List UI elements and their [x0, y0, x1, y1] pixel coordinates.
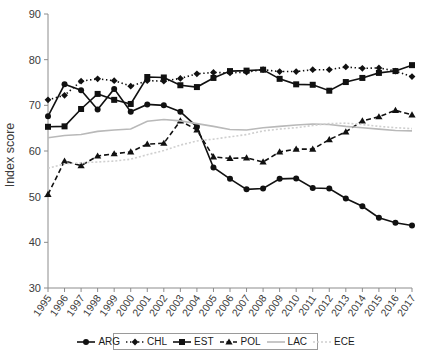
- series-line-lac: [48, 119, 412, 137]
- data-point-chl: [342, 64, 349, 71]
- legend-item-pol[interactable]: POL: [219, 337, 261, 347]
- data-point-est: [244, 68, 250, 74]
- data-point-arg: [277, 176, 283, 182]
- legend-item-ece[interactable]: ECE: [312, 337, 355, 347]
- data-point-arg: [177, 109, 183, 115]
- data-point-est: [45, 124, 51, 130]
- data-point-chl: [177, 75, 184, 82]
- legend-item-lac[interactable]: LAC: [266, 337, 307, 347]
- data-point-chl: [78, 78, 85, 85]
- data-point-chl: [210, 69, 217, 76]
- data-point-arg: [95, 106, 101, 112]
- y-tick-label: 30: [29, 282, 41, 294]
- legend-symbol-square-solid-line-icon: [172, 337, 192, 347]
- data-point-arg: [392, 220, 398, 226]
- data-point-pol: [359, 117, 366, 123]
- data-point-arg: [45, 113, 51, 119]
- data-point-arg: [210, 164, 216, 170]
- data-point-est: [409, 62, 415, 68]
- y-tick-label: 90: [29, 8, 41, 20]
- data-point-est: [392, 68, 398, 74]
- data-point-arg: [161, 102, 167, 108]
- data-point-est: [128, 101, 134, 107]
- data-point-chl: [276, 68, 283, 75]
- data-point-arg: [376, 215, 382, 221]
- y-axis-title: Index score: [3, 123, 17, 188]
- data-point-est: [376, 70, 382, 76]
- data-point-arg: [326, 185, 332, 191]
- x-axis: 1995199619971998199920002001200220032004…: [30, 288, 417, 318]
- data-point-pol: [144, 141, 151, 147]
- legend-label: EST: [194, 337, 213, 347]
- data-point-arg: [343, 195, 349, 201]
- data-point-pol: [61, 157, 68, 163]
- chart-plot-area: 90807060504030 1995199619971998199920002…: [0, 0, 430, 363]
- y-tick-label: 50: [29, 191, 41, 203]
- data-point-est: [62, 123, 68, 129]
- data-point-chl: [326, 66, 333, 73]
- chart-legend: ARGCHLESTPOLLACECE: [113, 333, 318, 350]
- data-point-pol: [44, 191, 51, 197]
- x-tick-label: 2017: [394, 292, 417, 318]
- data-point-pol: [392, 107, 399, 113]
- data-point-est: [177, 82, 183, 88]
- y-tick-label: 70: [29, 99, 41, 111]
- legend-item-chl[interactable]: CHL: [125, 337, 167, 347]
- legend-label: ARG: [98, 337, 120, 347]
- data-point-arg: [227, 176, 233, 182]
- data-point-est: [277, 76, 283, 82]
- index-score-line-chart: 90807060504030 1995199619971998199920002…: [0, 0, 430, 363]
- data-point-est: [78, 106, 84, 112]
- data-point-arg: [310, 185, 316, 191]
- legend-item-arg[interactable]: ARG: [76, 337, 120, 347]
- data-point-est: [95, 91, 101, 97]
- legend-label: LAC: [288, 337, 307, 347]
- legend-symbol-circle-solid-line-icon: [76, 337, 96, 347]
- data-point-chl: [111, 77, 118, 84]
- y-axis: 90807060504030: [29, 8, 48, 294]
- data-point-pol: [342, 128, 349, 134]
- data-point-arg: [244, 186, 250, 192]
- data-point-est: [343, 79, 349, 85]
- data-point-arg: [260, 185, 266, 191]
- data-point-pol: [375, 113, 382, 119]
- legend-label: CHL: [147, 337, 167, 347]
- data-point-arg: [111, 86, 117, 92]
- data-point-est: [161, 74, 167, 80]
- data-point-pol: [408, 111, 415, 117]
- data-point-est: [111, 97, 117, 103]
- legend-label: POL: [241, 337, 261, 347]
- data-point-arg: [144, 101, 150, 107]
- data-point-est: [194, 84, 200, 90]
- data-point-chl: [194, 70, 201, 77]
- data-point-chl: [409, 73, 416, 80]
- data-point-est: [293, 81, 299, 87]
- data-point-arg: [78, 87, 84, 93]
- data-point-est: [210, 75, 216, 81]
- data-point-est: [326, 88, 332, 94]
- data-point-arg: [128, 109, 134, 115]
- legend-symbol-triangle-dashed-line-icon: [219, 337, 239, 347]
- y-tick-label: 80: [29, 54, 41, 66]
- legend-symbol-gray-dotted-line-icon: [312, 337, 332, 347]
- data-point-arg: [293, 175, 299, 181]
- legend-item-est[interactable]: EST: [172, 337, 213, 347]
- legend-symbol-diamond-dotted-line-icon: [125, 337, 145, 347]
- data-point-arg: [409, 222, 415, 228]
- data-point-est: [227, 68, 233, 74]
- data-point-est: [359, 75, 365, 81]
- data-point-chl: [45, 96, 52, 103]
- data-point-arg: [62, 81, 68, 87]
- data-point-est: [260, 67, 266, 73]
- y-tick-label: 60: [29, 145, 41, 157]
- series-layer: [44, 62, 415, 228]
- data-point-chl: [94, 75, 101, 82]
- y-tick-label: 40: [29, 236, 41, 248]
- legend-symbol-gray-solid-line-icon: [266, 337, 286, 347]
- legend-label: ECE: [334, 337, 355, 347]
- data-point-est: [310, 82, 316, 88]
- data-point-arg: [359, 203, 365, 209]
- data-point-chl: [309, 66, 316, 73]
- data-point-chl: [293, 68, 300, 75]
- data-point-chl: [359, 65, 366, 72]
